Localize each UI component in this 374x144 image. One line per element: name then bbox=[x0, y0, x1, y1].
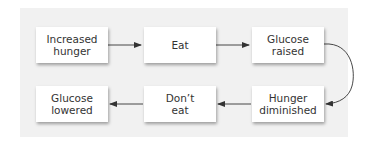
node-glucose-lowered: Glucose lowered bbox=[36, 86, 108, 122]
node-increased-hunger: Increased hunger bbox=[36, 27, 108, 63]
node-hunger-diminished: Hunger diminished bbox=[252, 86, 324, 122]
node-eat: Eat bbox=[144, 27, 216, 63]
node-dont-eat: Don’t eat bbox=[144, 86, 216, 122]
node-glucose-raised: Glucose raised bbox=[252, 27, 324, 63]
